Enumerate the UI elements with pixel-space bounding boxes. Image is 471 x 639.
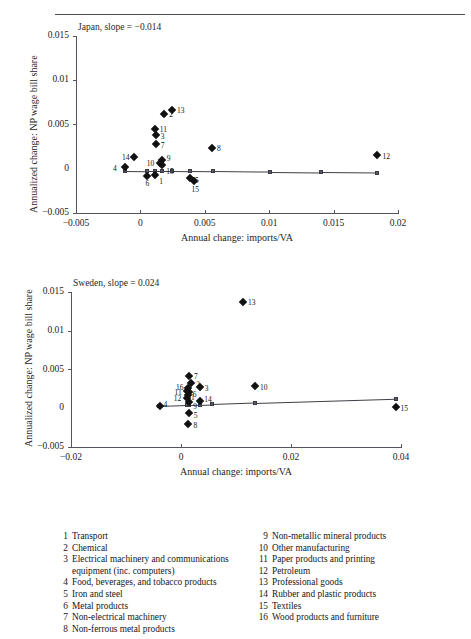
y-tick-label: 0.015 <box>0 30 69 40</box>
figure-page: Japan, slope = −0.0140.0150.010.0050−0.0… <box>0 0 471 639</box>
data-point-marker <box>160 110 168 118</box>
y-tick <box>73 36 77 37</box>
data-point-label: 4 <box>113 165 117 173</box>
data-point-label: 1 <box>159 178 163 186</box>
y-axis-label: Annualized change: NP wage bill share <box>23 289 34 447</box>
fitted-value-marker <box>188 169 192 173</box>
x-tick-label: 0 <box>151 452 211 462</box>
data-point-label: 15 <box>166 168 174 176</box>
data-point-label: 14 <box>204 396 212 404</box>
legend-item: 7Non-electrical machinery <box>55 612 229 624</box>
legend-item-label: Professional goods <box>272 577 343 589</box>
data-point-label: 5 <box>194 412 198 420</box>
legend-item: 4Food, beverages, and tobacco products <box>55 577 229 589</box>
legend-item-number: 14 <box>255 589 268 601</box>
legend-item: 11Paper products and printing <box>255 554 386 566</box>
legend-item: 10Other manufacturing <box>255 543 386 555</box>
legend-item: 14Rubber and plastic products <box>255 589 386 601</box>
x-tick <box>181 444 182 448</box>
legend-item-label: Food, beverages, and tobacco products <box>72 577 217 589</box>
legend-item-number: 12 <box>255 566 268 578</box>
legend-item-number: 1 <box>55 531 68 543</box>
regression-line-segment <box>255 399 396 404</box>
legend-item-label: Paper products and printing <box>272 554 375 566</box>
legend-item-label: Wood products and furniture <box>272 612 379 624</box>
legend-item-label: Non-ferrous metal products <box>72 624 175 636</box>
data-point-marker <box>251 382 259 390</box>
fitted-value-marker <box>211 169 215 173</box>
fitted-value-marker <box>160 169 164 173</box>
data-point-label: 12 <box>382 153 390 161</box>
fitted-value-marker <box>394 397 398 401</box>
legend-item: 5Iron and steel <box>55 589 229 601</box>
data-point-label: 15 <box>191 186 199 194</box>
legend-item-number: 4 <box>55 577 68 589</box>
legend-item-number: 13 <box>255 577 268 589</box>
fitted-value-marker <box>319 170 323 174</box>
x-tick <box>76 210 77 214</box>
regression-line-segment <box>125 171 147 172</box>
legend-item-label: Rubber and plastic products <box>272 589 376 601</box>
chart-sweden: Sweden, slope = 0.0240.0150.010.0050−0.0… <box>0 272 471 512</box>
legend-item-label: Textiles <box>272 601 301 613</box>
data-point-label: 15 <box>401 405 409 413</box>
x-tick-label: 0.02 <box>368 218 428 228</box>
legend-item-label: Non-metallic mineral products <box>272 531 386 543</box>
legend-item: 15Textiles <box>255 601 386 613</box>
legend-item-number: 7 <box>55 612 68 624</box>
data-point-label: 4 <box>164 401 168 409</box>
data-point-label: 9 <box>193 403 197 411</box>
legend-item: 9Non-metallic mineral products <box>255 531 386 543</box>
data-point-marker <box>184 409 192 417</box>
x-axis-label: Annual change: imports/VA <box>31 466 441 477</box>
legend-item-number: 5 <box>55 589 68 601</box>
data-point-label: 14 <box>122 154 130 162</box>
legend-item-number: 9 <box>255 531 268 543</box>
x-tick <box>71 444 72 448</box>
x-tick <box>401 444 402 448</box>
data-point-marker <box>391 403 399 411</box>
legend-column-left: 1Transport2Chemical3Electrical machinery… <box>55 531 229 635</box>
fitted-value-marker <box>268 170 272 174</box>
legend-item-label: Other manufacturing <box>272 543 350 555</box>
data-point-label: 16 <box>176 384 184 392</box>
regression-line-segment <box>213 171 270 173</box>
legend-item-label: Electrical machinery and communications <box>72 554 229 566</box>
x-tick-label: 0.02 <box>261 452 321 462</box>
y-tick <box>68 369 72 370</box>
data-point-marker <box>373 151 381 159</box>
legend-item: 12Petroleum <box>255 566 386 578</box>
data-point-label: 3 <box>205 385 209 393</box>
x-tick <box>205 210 206 214</box>
data-point-marker <box>184 420 192 428</box>
legend-item-number: 15 <box>255 601 268 613</box>
legend-item-label: Petroleum <box>272 566 310 578</box>
chart-title: Sweden, slope = 0.024 <box>73 278 159 288</box>
fitted-value-marker <box>375 171 379 175</box>
y-axis-label: Annualized change: NP wage bill share <box>28 55 39 213</box>
data-point-marker <box>208 144 216 152</box>
legend-item-number: 3 <box>55 554 68 566</box>
data-point-label: 11 <box>160 126 167 134</box>
legend-item-label: Metal products <box>72 601 128 613</box>
data-point-marker <box>158 161 166 169</box>
legend-item-number: 11 <box>255 554 268 566</box>
x-tick <box>334 210 335 214</box>
data-point-label: 7 <box>194 373 198 381</box>
x-tick <box>398 210 399 214</box>
chart-japan: Japan, slope = −0.0140.0150.010.0050−0.0… <box>0 18 471 258</box>
data-point-label: 6 <box>145 180 149 188</box>
legend-item-number: 10 <box>255 543 268 555</box>
legend-item-label: Non-electrical machinery <box>72 612 167 624</box>
x-axis-label: Annual change: imports/VA <box>36 232 438 243</box>
x-tick-label: 0.005 <box>175 218 235 228</box>
x-tick-label: −0.02 <box>41 452 101 462</box>
data-point-label: 8 <box>217 145 221 153</box>
data-point-marker <box>152 140 160 148</box>
chart-title: Japan, slope = −0.014 <box>78 22 161 32</box>
regression-line-segment <box>212 403 255 405</box>
data-point-label: 9 <box>167 155 171 163</box>
legend-item-label: Chemical <box>72 543 108 555</box>
legend-item: 8Non-ferrous metal products <box>55 624 229 636</box>
regression-line-segment <box>270 172 321 173</box>
